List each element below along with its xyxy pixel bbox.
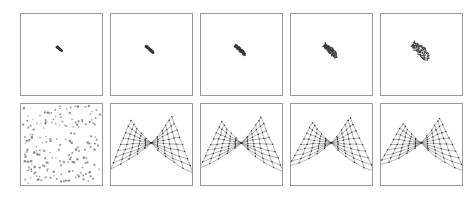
panel-r1-c3-collapsed-mesh [200,13,283,96]
panel-r2-c5-butterfly-mesh [380,103,463,186]
butterfly-mesh-graphic [291,104,372,185]
collapsed-mesh-nodes [56,45,63,51]
butterfly-mesh-graphic [381,104,462,185]
mesh-edges [201,117,282,172]
figure-panel-grid [0,0,476,198]
collapsed-mesh-graphic [291,14,372,95]
collapsed-mesh-graphic [381,14,462,95]
panel-r1-c2-collapsed-mesh [110,13,193,96]
panel-r2-c2-butterfly-mesh [110,103,193,186]
butterfly-mesh-graphic [111,104,192,185]
butterfly-mesh-graphic [201,104,282,185]
panel-r2-c1-random-scatter [20,103,103,186]
mesh-edges [111,117,192,173]
panel-r2-c4-butterfly-mesh [290,103,373,186]
panel-r1-c1-collapsed-mesh [20,13,103,96]
mesh-edges [291,118,372,171]
panel-r2-c3-butterfly-mesh [200,103,283,186]
random-scatter-graphic [21,104,102,185]
collapsed-mesh-graphic [111,14,192,95]
mesh-edges [381,118,462,171]
collapsed-mesh-graphic [201,14,282,95]
collapsed-mesh-nodes [234,44,246,56]
panel-r1-c4-collapsed-mesh [290,13,373,96]
mesh-nodes [111,116,192,173]
scatter-points [22,105,101,184]
collapsed-mesh-graphic [21,14,102,95]
collapsed-mesh-nodes [145,45,155,54]
panel-r1-c5-collapsed-mesh [380,13,463,96]
